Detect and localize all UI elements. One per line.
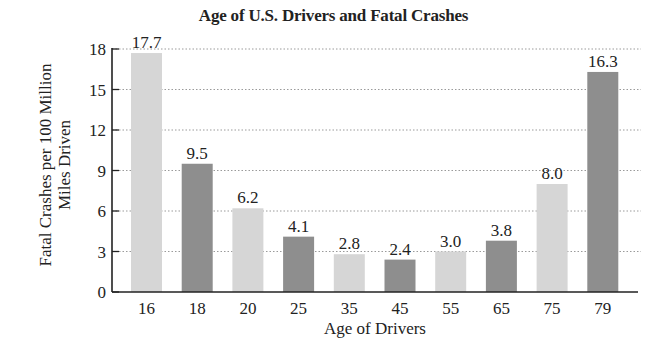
x-tick-label: 55 (442, 299, 459, 318)
bar-value-label: 16.3 (588, 52, 618, 71)
bar-55 (435, 252, 466, 293)
x-tick-label: 75 (544, 299, 561, 318)
y-tick-label: 3 (98, 243, 107, 262)
bar-value-label: 4.1 (288, 217, 309, 236)
x-tick-label: 45 (392, 299, 409, 318)
bar-chart-plot: 036912151817.7169.5186.2204.1252.8352.44… (0, 0, 667, 344)
x-tick-label: 65 (493, 299, 510, 318)
bar-value-label: 17.7 (132, 33, 162, 52)
x-tick-label: 16 (138, 299, 155, 318)
y-tick-label: 12 (89, 121, 106, 140)
bar-75 (537, 184, 568, 292)
bar-18 (182, 164, 213, 292)
bar-value-label: 3.0 (440, 232, 461, 251)
bar-value-label: 2.8 (339, 234, 360, 253)
bar-value-label: 9.5 (187, 144, 208, 163)
y-tick-label: 18 (89, 40, 106, 59)
y-tick-label: 6 (98, 202, 107, 221)
x-tick-label: 20 (239, 299, 256, 318)
x-tick-label: 79 (594, 299, 611, 318)
x-tick-label: 25 (290, 299, 307, 318)
bar-value-label: 3.8 (491, 221, 512, 240)
bar-45 (385, 260, 416, 292)
y-tick-label: 0 (98, 283, 107, 302)
bar-65 (486, 241, 517, 292)
bar-16 (131, 53, 162, 292)
bar-20 (232, 208, 263, 292)
bar-value-label: 2.4 (389, 240, 411, 259)
x-tick-label: 18 (189, 299, 206, 318)
bar-35 (334, 254, 365, 292)
x-axis-label: Age of Drivers (112, 319, 638, 339)
bar-25 (283, 237, 314, 292)
bar-value-label: 8.0 (541, 164, 562, 183)
y-tick-label: 15 (89, 81, 106, 100)
x-tick-label: 35 (341, 299, 358, 318)
bar-value-label: 6.2 (237, 188, 258, 207)
bar-79 (587, 72, 618, 292)
y-tick-label: 9 (98, 162, 107, 181)
